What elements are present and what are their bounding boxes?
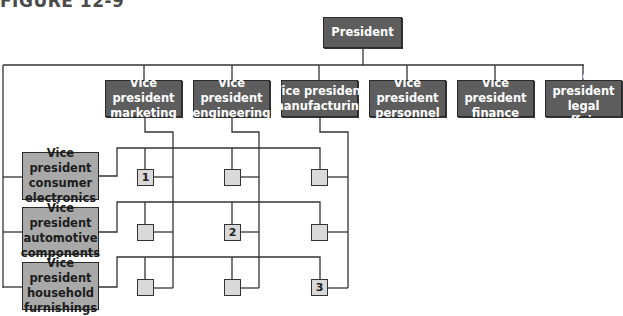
vp-legal-affairs-box: Vice presidentlegal affairs <box>545 80 622 117</box>
vp-division-line: furnishings <box>23 301 98 316</box>
vp-title: Vice president <box>272 84 367 99</box>
vp-title: Vice president <box>23 256 98 286</box>
vp-title: Vice president <box>193 76 271 106</box>
vp-division-line: household <box>23 286 98 301</box>
matrix-cell <box>311 224 328 241</box>
vp-division-line: consumer <box>23 176 98 191</box>
vp-title: Vice president <box>546 69 621 99</box>
president-box: President <box>323 17 402 48</box>
vp-function: finance <box>458 106 533 121</box>
vp-manufacturing-box: Vice presidentmanufacturing <box>281 80 358 117</box>
matrix-cell <box>224 279 241 296</box>
matrix-cell: 1 <box>137 169 154 186</box>
vp-function: marketing <box>106 106 181 121</box>
vp-automotive-components-box: Vice presidentautomotivecomponents <box>22 207 99 255</box>
vp-function: personnel <box>370 106 445 121</box>
vp-division-line: automotive <box>21 231 100 246</box>
matrix-cell <box>137 279 154 296</box>
vp-finance-box: Vice presidentfinance <box>457 80 534 117</box>
vp-title: Vice president <box>23 146 98 176</box>
president-label: President <box>331 25 393 40</box>
vp-marketing-box: Vice presidentmarketing <box>105 80 182 117</box>
vp-consumer-electronics-box: Vice presidentconsumerelectronics <box>22 152 99 200</box>
matrix-cell: 3 <box>311 279 328 296</box>
vp-function: manufacturing <box>272 99 367 114</box>
vp-household-furnishings-box: Vice presidenthouseholdfurnishings <box>22 262 99 310</box>
vp-title: Vice president <box>106 76 181 106</box>
vp-title: Vice president <box>458 76 533 106</box>
vp-personnel-box: Vice presidentpersonnel <box>369 80 446 117</box>
matrix-cell <box>137 224 154 241</box>
matrix-cell <box>311 169 328 186</box>
vp-engineering-box: Vice presidentengineering <box>193 80 270 117</box>
matrix-cell <box>224 169 241 186</box>
vp-title: Vice president <box>370 76 445 106</box>
vp-function: legal affairs <box>546 99 621 129</box>
vp-function: engineering <box>193 106 271 121</box>
matrix-cell: 2 <box>224 224 241 241</box>
vp-title: Vice president <box>21 201 100 231</box>
